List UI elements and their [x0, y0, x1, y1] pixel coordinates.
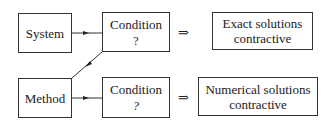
numerical-line2: contractive	[229, 97, 287, 112]
condition-bottom-label: Condition	[110, 82, 162, 97]
numerical-solutions-node: Numerical solutions contractive	[198, 77, 318, 116]
arrowhead-icon	[83, 31, 89, 35]
condition-top-mark: ?	[133, 34, 138, 48]
condition-top-label: Condition	[110, 17, 162, 32]
arrowhead-icon	[83, 96, 89, 100]
condition-bottom-node: Condition ?	[102, 77, 170, 118]
numerical-line1: Numerical solutions	[205, 82, 310, 97]
method-label: Method	[25, 91, 65, 106]
method-node: Method	[18, 78, 72, 118]
exact-line2: contractive	[234, 31, 292, 46]
system-label: System	[26, 26, 64, 41]
system-node: System	[18, 13, 72, 53]
exact-line1: Exact solutions	[223, 16, 303, 31]
condition-top-node: Condition ?	[102, 12, 170, 52]
implies-icon: ⇒	[178, 26, 189, 39]
condition-bottom-mark: ?	[133, 99, 139, 113]
exact-solutions-node: Exact solutions contractive	[212, 12, 313, 50]
implies-icon: ⇒	[178, 91, 189, 104]
